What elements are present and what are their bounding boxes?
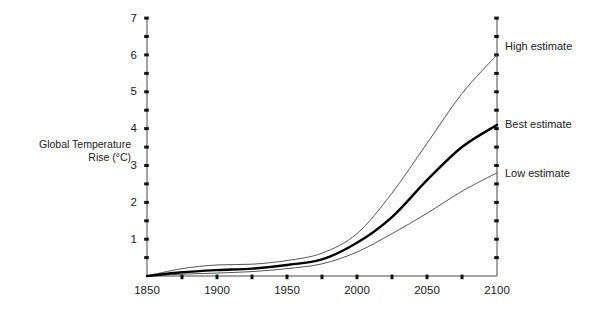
x-tick-label-1950: 1950 <box>274 284 300 296</box>
series-label-low-estimate: Low estimate <box>505 167 570 179</box>
chart-container: 7 6 5 4 3 2 1 1850 1900 1950 2000 2050 2… <box>0 0 597 314</box>
y-tick-label-3: 3 <box>131 159 137 171</box>
x-tick-label-1900: 1900 <box>204 284 230 296</box>
y-tick-label-4: 4 <box>131 122 138 134</box>
y-axis-title-line1: Global Temperature <box>39 138 131 150</box>
x-tick-label-1850: 1850 <box>134 284 160 296</box>
x-tick-label-2000: 2000 <box>344 284 370 296</box>
y-tick-label-1: 1 <box>131 233 137 245</box>
x-tick-label-2050: 2050 <box>414 284 440 296</box>
series-label-best-estimate: Best estimate <box>505 118 572 130</box>
y-tick-label-6: 6 <box>131 49 137 61</box>
y-tick-label-7: 7 <box>131 12 137 24</box>
y-tick-label-2: 2 <box>131 196 137 208</box>
y-tick-label-5: 5 <box>131 85 137 97</box>
x-tick-label-2100: 2100 <box>484 284 510 296</box>
series-line-high-estimate <box>147 55 497 276</box>
y-axis-title-line2: Rise (°C) <box>88 151 131 163</box>
temperature-rise-line-chart: 7 6 5 4 3 2 1 1850 1900 1950 2000 2050 2… <box>0 0 597 314</box>
x-axis-ticks <box>181 275 464 280</box>
series-label-high-estimate: High estimate <box>505 40 572 52</box>
